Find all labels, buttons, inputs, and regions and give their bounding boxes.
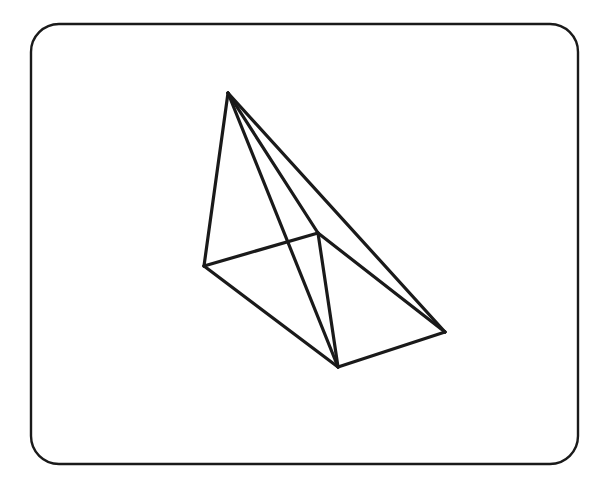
canvas-background: [0, 0, 614, 489]
line-drawing-figure: [0, 0, 614, 489]
drawing-canvas: [0, 0, 614, 489]
